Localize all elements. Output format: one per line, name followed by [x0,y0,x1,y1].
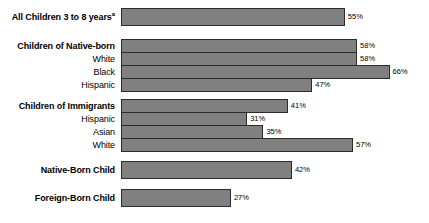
bar-row: Children of Native-born58% [0,39,429,53]
bar [121,125,263,139]
bar-value-label: 58% [357,42,375,50]
bar-row-label: Hispanic [0,80,121,90]
bar-value-label: 41% [288,102,306,110]
bar [121,189,231,207]
bar-track: 35% [121,125,429,139]
bar-row-label: White [0,140,121,150]
bar-value-label: 66% [390,68,408,76]
bar-row: Asian35% [0,125,429,139]
bar [121,161,292,179]
bar-value-label: 55% [345,13,363,21]
bar [121,39,357,53]
bar-row-label: All Children 3 to 8 yearsa [0,12,121,22]
bar-track: 27% [121,189,429,207]
bar-value-label: 47% [312,81,330,89]
bar [121,138,353,152]
bar-value-label: 31% [247,115,265,123]
bar-value-label: 27% [231,194,249,202]
bar [121,52,357,66]
bar-track: 66% [121,65,429,79]
bar-track: 58% [121,52,429,66]
bar [121,112,247,126]
bar-row: Children of Immigrants41% [0,99,429,113]
bar-row: Native-Born Child42% [0,161,429,179]
bar-row-label: Asian [0,127,121,137]
bar-row-label: White [0,54,121,64]
bar-row: Foreign-Born Child27% [0,189,429,207]
bar-track: 31% [121,112,429,126]
bar-track: 55% [121,8,429,26]
bar-row: White57% [0,138,429,152]
bar-row-label: Native-Born Child [0,165,121,175]
bar-row-label: Black [0,67,121,77]
bar-row-label: Children of Immigrants [0,101,121,111]
bar-row: White58% [0,52,429,66]
bar-track: 58% [121,39,429,53]
bar-row: All Children 3 to 8 yearsa55% [0,8,429,26]
bar-value-label: 35% [263,128,281,136]
bar-row: Black66% [0,65,429,79]
bar [121,65,390,79]
bar-track: 47% [121,78,429,92]
bar-track: 57% [121,138,429,152]
bar [121,8,345,26]
bar-value-label: 57% [353,141,371,149]
bar [121,99,288,113]
bar-track: 42% [121,161,429,179]
footnote-marker: a [112,11,115,17]
bar-row: Hispanic31% [0,112,429,126]
bar-row-label: Foreign-Born Child [0,193,121,203]
bar-value-label: 58% [357,55,375,63]
bar [121,78,312,92]
bar-track: 41% [121,99,429,113]
bar-value-label: 42% [292,166,310,174]
bar-chart: All Children 3 to 8 yearsa55%Children of… [0,0,429,223]
bar-row-label: Hispanic [0,114,121,124]
bar-row: Hispanic47% [0,78,429,92]
bar-row-label: Children of Native-born [0,41,121,51]
